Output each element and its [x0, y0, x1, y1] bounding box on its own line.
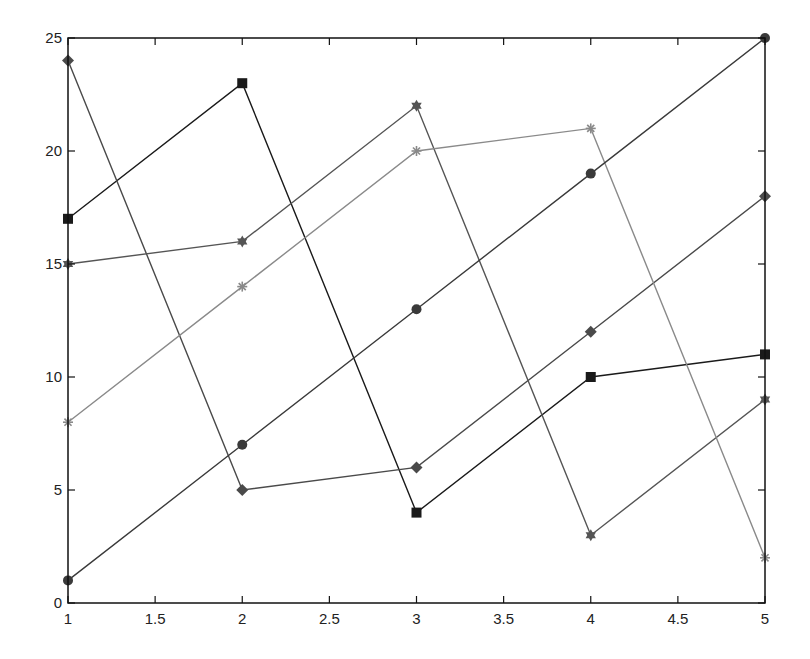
- series-3: [63, 100, 770, 541]
- square-marker: [586, 372, 596, 382]
- x-axis: 11.522.533.544.55: [64, 38, 769, 627]
- x-tick-label: 1.5: [145, 610, 166, 627]
- y-tick-label: 20: [45, 142, 62, 159]
- line-chart: 11.522.533.544.55 0510152025: [0, 0, 810, 659]
- y-tick-label: 25: [45, 29, 62, 46]
- x-tick-label: 2.5: [319, 610, 340, 627]
- series-1: [63, 78, 770, 517]
- asterisk-marker: [412, 146, 422, 156]
- plot-frame: [68, 38, 765, 603]
- series-4: [63, 123, 770, 562]
- series-line: [68, 61, 765, 490]
- y-tick-label: 10: [45, 368, 62, 385]
- x-tick-label: 4.5: [667, 610, 688, 627]
- hexagram-marker: [411, 100, 421, 112]
- asterisk-marker: [237, 282, 247, 292]
- square-marker: [237, 78, 247, 88]
- square-marker: [412, 508, 422, 518]
- y-tick-label: 5: [54, 481, 62, 498]
- x-tick-label: 2: [238, 610, 246, 627]
- asterisk-marker: [586, 123, 596, 133]
- diamond-marker: [411, 461, 423, 473]
- y-axis: 0510152025: [45, 29, 765, 611]
- x-tick-label: 3.5: [493, 610, 514, 627]
- series-layer: [62, 33, 771, 585]
- x-tick-label: 4: [587, 610, 595, 627]
- y-tick-label: 0: [54, 594, 62, 611]
- diamond-marker: [236, 484, 248, 496]
- circle-marker: [586, 169, 596, 179]
- x-tick-label: 3: [412, 610, 420, 627]
- hexagram-marker: [586, 529, 596, 541]
- series-line: [68, 128, 765, 557]
- x-tick-label: 1: [64, 610, 72, 627]
- series-2: [62, 55, 771, 496]
- diamond-marker: [585, 326, 597, 338]
- x-tick-label: 5: [761, 610, 769, 627]
- circle-marker: [237, 440, 247, 450]
- y-tick-label: 15: [45, 255, 62, 272]
- circle-marker: [412, 304, 422, 314]
